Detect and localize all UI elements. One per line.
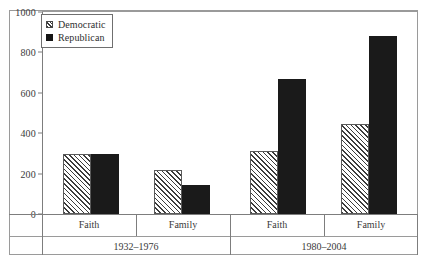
category-label-faith-1980: Faith: [267, 219, 288, 230]
axis-separator-left: [42, 215, 43, 255]
legend-label-democratic: Democratic: [58, 19, 106, 30]
y-tick-label: 1000: [15, 7, 36, 18]
y-tick-label: 600: [20, 87, 36, 98]
bar-chart-figure: 1000 800 600 400 200 0: [0, 0, 427, 268]
y-tick-label: 800: [20, 47, 36, 58]
legend-label-republican: Republican: [58, 32, 105, 43]
category-label-family-1980: Family: [357, 219, 385, 230]
solid-black-swatch-icon: [46, 34, 53, 41]
chart-legend: Democratic Republican: [41, 14, 113, 48]
bar-democratic-1932-family: [154, 170, 182, 214]
y-tick-label: 400: [20, 128, 36, 139]
bar-democratic-1980-family: [341, 124, 369, 214]
axis-separator-right: [417, 215, 418, 255]
bar-democratic-1980-faith: [250, 151, 278, 214]
axis-separator-mid: [230, 215, 231, 255]
category-label-faith-1932: Faith: [79, 219, 100, 230]
bar-republican-1932-family: [182, 185, 210, 214]
category-divider-line: [9, 236, 418, 237]
period-label-1980-2004: 1980–2004: [302, 241, 347, 252]
bar-republican-1980-family: [369, 36, 397, 214]
hatched-swatch-icon: [46, 21, 53, 28]
y-tick-label: 200: [20, 168, 36, 179]
axis-separator-group2: [324, 215, 325, 236]
legend-item-democratic: Democratic: [46, 18, 106, 31]
axis-separator-group1: [136, 215, 137, 236]
bar-republican-1932-faith: [91, 154, 119, 214]
category-label-family-1932: Family: [169, 219, 197, 230]
legend-item-republican: Republican: [46, 31, 106, 44]
bar-democratic-1932-faith: [63, 154, 91, 214]
period-label-1932-1976: 1932–1976: [114, 241, 159, 252]
bar-republican-1980-faith: [278, 79, 306, 214]
x-axis-line: [9, 214, 418, 215]
